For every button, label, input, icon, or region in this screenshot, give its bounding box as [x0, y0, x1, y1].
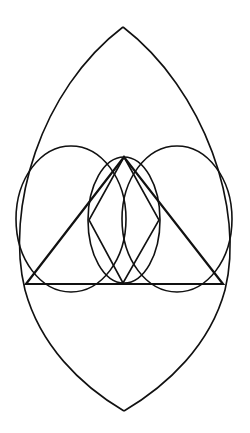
right-circle [122, 146, 232, 292]
vesica-left-arc [20, 27, 124, 411]
left-circle [16, 146, 126, 292]
triangle [26, 157, 223, 284]
geometric-diagram [0, 0, 250, 433]
center-circle [88, 157, 160, 283]
vesica-right-arc [123, 27, 230, 411]
rhombus [89, 157, 159, 283]
